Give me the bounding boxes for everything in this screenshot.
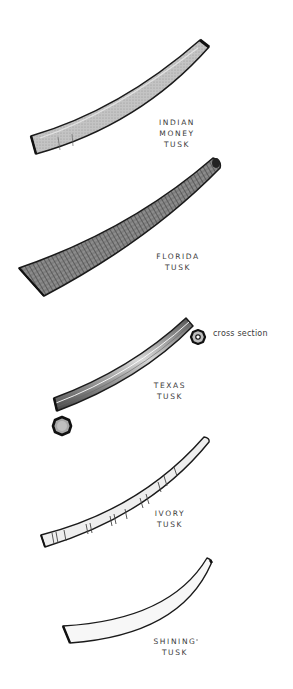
- label-line: SHINING: [148, 636, 202, 647]
- label-line: TUSK: [152, 139, 202, 150]
- label-line: MONEY: [152, 128, 202, 139]
- shining-tusk-illustration: [63, 558, 212, 643]
- label-line: IVORY: [148, 508, 192, 519]
- tusk-shell-diagram: [0, 0, 293, 689]
- label-line: TUSK: [148, 391, 192, 402]
- cross-section-small-icon: [191, 330, 205, 344]
- texas-tusk-label: TEXAS TUSK: [148, 380, 192, 402]
- label-line: TUSK: [148, 519, 192, 530]
- shining-tusk-label: SHINING TUSK: [148, 636, 202, 658]
- ivory-tusk-illustration: [41, 437, 209, 547]
- label-line: FLORIDA: [150, 251, 206, 262]
- florida-tusk-label: FLORIDA TUSK: [150, 251, 206, 273]
- label-line: INDIAN: [152, 117, 202, 128]
- ivory-tusk-label: IVORY TUSK: [148, 508, 192, 530]
- indian-money-tusk-label: INDIAN MONEY TUSK: [152, 117, 202, 150]
- cross-section-large-icon: [53, 417, 71, 435]
- label-line: TUSK: [148, 647, 202, 658]
- cross-section-annotation: cross section: [213, 329, 268, 338]
- label-line: TEXAS: [148, 380, 192, 391]
- florida-tusk-illustration: [19, 158, 220, 296]
- label-line: TUSK: [150, 262, 206, 273]
